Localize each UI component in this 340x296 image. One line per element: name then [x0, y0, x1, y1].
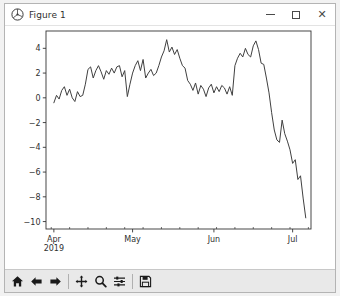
close-icon: ✕: [317, 9, 326, 20]
toolbar-separator-1: [68, 274, 69, 289]
y-tick-label: 2: [35, 69, 40, 78]
x-tick-label: Jul: [287, 235, 298, 244]
close-button[interactable]: ✕: [309, 4, 335, 26]
window-titlebar[interactable]: Figure 1 ✕: [5, 4, 335, 26]
window-controls: ✕: [257, 4, 335, 26]
matplotlib-axes[interactable]: 420−2−4−6−8−10Apr2019MayJunJul: [5, 26, 335, 268]
application-root: Figure 1 ✕ 420−2−4−6−8−10Apr2019MayJunJu…: [0, 0, 340, 296]
zoom-magnifier-icon[interactable]: [91, 272, 109, 291]
x-tick-sublabel-year: 2019: [44, 244, 64, 253]
maximize-button[interactable]: [283, 4, 309, 26]
navigation-toolbar[interactable]: [5, 269, 335, 292]
y-tick-label: 4: [35, 44, 40, 53]
home-icon[interactable]: [8, 272, 26, 291]
x-tick-label: Jun: [207, 235, 221, 244]
back-arrow-icon[interactable]: [27, 272, 45, 291]
y-tick-label: −4: [29, 143, 41, 152]
x-tick-label: Apr: [47, 235, 62, 244]
minimize-button[interactable]: [257, 4, 283, 26]
figure-canvas[interactable]: 420−2−4−6−8−10Apr2019MayJunJul: [5, 26, 335, 269]
figure-window: Figure 1 ✕ 420−2−4−6−8−10Apr2019MayJunJu…: [4, 3, 336, 293]
save-floppy-icon[interactable]: [136, 272, 154, 291]
window-title: Figure 1: [29, 10, 257, 20]
maximize-icon: [292, 11, 300, 19]
y-tick-label: −8: [29, 193, 41, 202]
pan-move-icon[interactable]: [72, 272, 90, 291]
y-tick-label: 0: [35, 94, 40, 103]
x-tick-label: May: [124, 235, 141, 244]
minimize-icon: [266, 14, 275, 15]
toolbar-separator-2: [132, 274, 133, 289]
y-tick-label: −6: [29, 168, 41, 177]
axes-background: [46, 31, 311, 229]
configure-subplots-icon[interactable]: [110, 272, 128, 291]
y-tick-label: −2: [29, 119, 41, 128]
y-tick-label: −10: [24, 218, 41, 227]
forward-arrow-icon[interactable]: [46, 272, 64, 291]
matplotlib-logo-icon: [11, 8, 24, 21]
